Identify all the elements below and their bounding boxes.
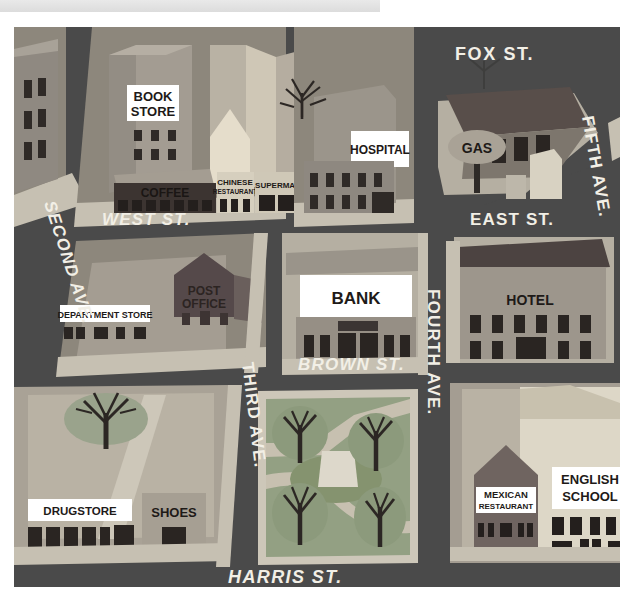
mexican-label-line2: RESTAURANT <box>479 502 534 511</box>
chinese-label-line2: RESTAURANT <box>213 188 257 195</box>
sidewalk-hotel-left <box>446 241 460 363</box>
bookstore-label-line1: BOOK <box>134 89 174 104</box>
street-label-fourth-ave: FOURTH AVE. <box>424 289 443 416</box>
postoffice-label-line1: POST <box>188 284 221 298</box>
park-tree-4 <box>354 487 406 547</box>
map-illustration: BOOK STORE COFFEE CHINESE RESTAURANT <box>14 27 620 587</box>
postoffice-label-line2: OFFICE <box>182 297 226 311</box>
mexican-label-line1: MEXICAN <box>484 489 528 500</box>
hospital-label: HOSPITAL <box>350 143 410 157</box>
building-far-left <box>14 49 58 193</box>
postoffice-windows <box>182 311 228 325</box>
department-store-label: DEPARTMENT STORE <box>57 310 152 320</box>
street-label-brown-st: BROWN ST. <box>298 355 405 374</box>
street-label-harris-st: HARRIS ST. <box>228 567 343 587</box>
bank-transom <box>338 321 378 331</box>
gas-label: GAS <box>462 140 492 156</box>
street-label-east-st: EAST ST. <box>470 210 554 229</box>
street-label-west-st: WEST ST. <box>102 210 191 229</box>
shoes-label: SHOES <box>151 505 197 520</box>
chinese-windows <box>220 199 250 212</box>
english-school-label-line1: ENGLISH <box>561 472 619 487</box>
hotel-label: HOTEL <box>506 292 554 308</box>
bookstore-label-line2: STORE <box>131 104 176 119</box>
park-monument <box>318 451 358 487</box>
english-school-label-line2: SCHOOL <box>562 489 618 504</box>
shed-large <box>530 149 562 199</box>
street-label-fox-st: FOX ST. <box>455 44 534 64</box>
building-tower-mid <box>246 45 276 187</box>
coffee-label: COFFEE <box>141 186 190 200</box>
shed-small <box>506 175 526 199</box>
bank-label: BANK <box>331 289 381 308</box>
map-page: BOOK STORE COFFEE CHINESE RESTAURANT <box>0 0 634 614</box>
top-strip <box>0 0 380 12</box>
drugstore-label: DRUGSTORE <box>43 505 117 517</box>
sidewalk-lower-right <box>450 547 620 561</box>
chinese-label-line1: CHINESE <box>217 178 253 187</box>
